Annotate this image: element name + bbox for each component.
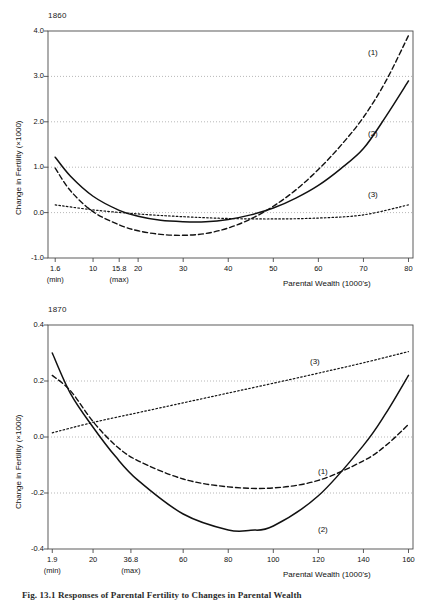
series-curve-3 [52, 352, 408, 433]
x-tick-label: 120 [298, 555, 338, 564]
y-tick-label: 0.4 [4, 320, 44, 329]
series-curve-3 [55, 205, 408, 219]
y-tick-label: 3.0 [4, 71, 44, 80]
curve-label-2: (2) [368, 129, 378, 138]
y-tick-label: 4.0 [4, 26, 44, 35]
x-tick-label: 30 [163, 264, 203, 273]
x-tick-label: 100 [253, 555, 293, 564]
plot-area-1860 [0, 0, 425, 295]
x-tick-label: 70 [343, 264, 383, 273]
y-tick-label: 0.0 [4, 432, 44, 441]
curve-label-1: (1) [368, 48, 378, 57]
x-tick-note: (max) [99, 275, 139, 284]
x-tick-note: (min) [35, 275, 75, 284]
x-tick-note: (min) [32, 566, 72, 575]
y-tick-label: 2.0 [4, 117, 44, 126]
plot-frame [48, 31, 413, 258]
curve-label-3: (3) [310, 357, 320, 366]
x-axis-label-1870: Parental Wealth (1000's) [283, 570, 371, 579]
chart-panel-1870: 1870 Change in Fertility (×1000) Parenta… [0, 297, 425, 587]
series-curve-2 [52, 353, 408, 531]
x-tick-label: 60 [163, 555, 203, 564]
x-tick-label: 1.6 [35, 264, 75, 273]
chart-panel-1860: 1860 Change in Fertility (×1000) Parenta… [0, 0, 425, 295]
x-tick-label: 20 [118, 264, 158, 273]
curve-label-3: (3) [368, 190, 378, 199]
series-curve-2 [55, 81, 408, 222]
panel-title-1860: 1860 [48, 11, 67, 20]
x-tick-label: 50 [253, 264, 293, 273]
x-tick-label: 80 [208, 555, 248, 564]
figure-container: 1860 Change in Fertility (×1000) Parenta… [0, 0, 425, 604]
panel-title-1870: 1870 [48, 305, 67, 314]
x-tick-label: 160 [388, 555, 425, 564]
curve-label-1: (1) [318, 467, 328, 476]
y-tick-label: 1.0 [4, 162, 44, 171]
y-tick-label: 0.2 [4, 376, 44, 385]
plot-area-1870 [0, 297, 425, 587]
x-tick-label: 1.9 [32, 555, 72, 564]
curve-label-2: (2) [318, 525, 328, 534]
figure-caption: Fig. 13.1 Responses of Parental Fertilit… [22, 589, 422, 602]
x-tick-label: 140 [343, 555, 383, 564]
x-tick-label: 80 [388, 264, 425, 273]
x-tick-label: 40 [208, 264, 248, 273]
x-tick-note: (max) [111, 566, 151, 575]
y-tick-label: 0.0 [4, 208, 44, 217]
y-tick-label: -0.4 [4, 544, 44, 553]
x-tick-label: 60 [298, 264, 338, 273]
x-axis-label-1860: Parental Wealth (1000's) [283, 279, 371, 288]
x-tick-label: 20 [73, 555, 113, 564]
x-tick-label: 36.8 [111, 555, 151, 564]
y-tick-label: -0.2 [4, 488, 44, 497]
y-tick-label: -1.0 [4, 253, 44, 262]
